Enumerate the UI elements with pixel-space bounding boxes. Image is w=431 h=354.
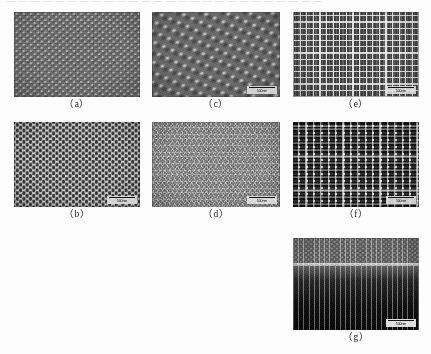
panel-f-highlights [293,122,419,207]
panel-f-scalebar: 500nm [386,196,416,204]
panel-f-scalebar-label: 500nm [396,199,407,203]
panel-c-texture [152,12,280,97]
panel-f-scalebar-line [388,197,414,198]
figure-page: — — — — — — — — — — — — — — — — — — — — … [0,0,431,354]
panel-d-caption: （d） [152,209,280,220]
panel-g-scalebar-label: 500nm [396,322,407,326]
panel-e-scalebar-label: 500nm [396,89,407,93]
panel-c-texture-wrap [152,12,280,97]
panel-b-scalebar-line [109,197,135,198]
panel-b-image: 500nm [14,122,140,207]
panel-d-scalebar-line [249,197,275,198]
panel-a-image [14,12,140,97]
panel-c-scalebar: 500nm [247,86,277,94]
panel-g-scalebar: 500nm [386,319,416,327]
panel-b-caption: （b） [14,209,140,220]
cutoff-text: — — — — — — — — — — — — — — — — — — — — … [6,0,376,6]
panel-d-scalebar-label: 500nm [257,199,268,203]
panel-e-scalebar-line [388,87,414,88]
panel-c-image: 500nm [152,12,280,97]
panel-e-scalebar: 500nm [386,86,416,94]
panel-g-caption: （g） [293,332,419,343]
panel-c-caption: （c） [152,99,280,110]
panel-d-image: 500nm [152,122,280,207]
panel-e-texture [293,12,419,97]
panel-b-texture [14,122,140,207]
panel-d-texture [152,122,280,207]
panel-a-noise [14,12,140,97]
panel-e-image: 500nm [293,12,419,97]
panel-e-caption: （e） [293,99,419,110]
panel-c-scalebar-label: 500nm [257,89,268,93]
panel-f-caption: （f） [293,209,419,220]
panel-a-caption: （a） [14,99,140,110]
panel-g-scalebar-line [388,320,414,321]
panel-b-scalebar: 500nm [107,196,137,204]
cutoff-text-line: — — — — — — — — — — — — — — — — — — — — … [6,0,376,7]
panel-d-scalebar: 500nm [247,196,277,204]
panel-b-scalebar-label: 500nm [117,199,128,203]
panel-f-image: 500nm [293,122,419,207]
panel-c-scalebar-line [249,87,275,88]
panel-g-image: 500nm [293,238,419,330]
